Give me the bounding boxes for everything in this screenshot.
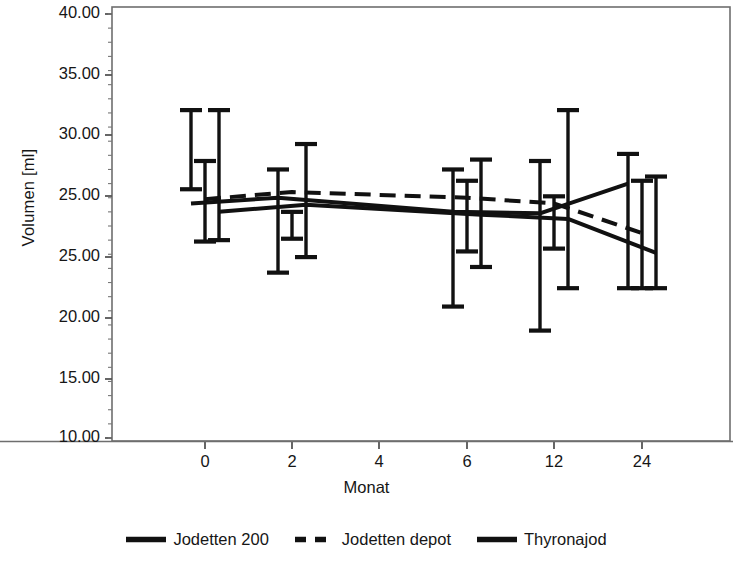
- legend-label-0: Jodetten 200: [173, 530, 268, 549]
- y-axis-tick-label-2: 30.00: [28, 124, 100, 143]
- legend-item-1[interactable]: Jodetten depot: [295, 530, 451, 549]
- line-solid-icon: [477, 534, 517, 545]
- x-axis-tick-label-1: 2: [287, 452, 296, 471]
- legend-item-0[interactable]: Jodetten 200: [126, 530, 268, 549]
- error-bar-0-1: [267, 169, 289, 272]
- x-axis-tick-label-2: 4: [374, 452, 383, 471]
- error-bar-0-4: [529, 161, 551, 331]
- legend-label-2: Thyronajod: [524, 530, 607, 549]
- volumen-monat-line-chart: 40.0035.0030.0025.0025.0020.0015.0010.00…: [0, 0, 733, 561]
- y-axis-tick-label-0: 40.00: [28, 3, 100, 22]
- error-bar-2-0: [208, 110, 230, 240]
- y-axis-tick-label-5: 20.00: [28, 307, 100, 326]
- y-axis-tick-label-6: 15.00: [28, 368, 100, 387]
- line-solid-icon: [126, 534, 166, 545]
- line-dashed-icon: [295, 534, 335, 545]
- x-axis-tick-label-0: 0: [200, 452, 209, 471]
- y-axis-title: Volumen [ml]: [19, 118, 38, 278]
- y-axis-tick-label-1: 35.00: [28, 64, 100, 83]
- x-axis-tick-label-3: 6: [462, 452, 471, 471]
- error-bar-0-0: [180, 110, 202, 189]
- legend-item-2[interactable]: Thyronajod: [477, 530, 607, 549]
- x-axis-tick-label-5: 24: [633, 452, 651, 471]
- error-bar-0-3: [442, 169, 464, 306]
- y-axis-tick-label-group: 40.0035.0030.0025.0025.0020.0015.0010.00: [28, 0, 100, 461]
- chart-legend: Jodetten 200Jodetten depotThyronajod: [0, 530, 733, 549]
- error-bar-1-5: [631, 181, 653, 288]
- legend-label-1: Jodetten depot: [342, 530, 451, 549]
- y-axis-tick-label-4: 25.00: [28, 246, 100, 265]
- error-bar-1-1: [281, 212, 303, 239]
- error-bar-0-5: [617, 154, 639, 288]
- y-axis-tick-label-3: 25.00: [28, 185, 100, 204]
- chart-plot-area: [0, 0, 733, 561]
- error-bar-2-5: [645, 177, 667, 289]
- y-axis-tick-label-7: 10.00: [28, 427, 100, 446]
- x-axis-title: Monat: [0, 478, 733, 497]
- x-axis-tick-label-4: 12: [545, 452, 563, 471]
